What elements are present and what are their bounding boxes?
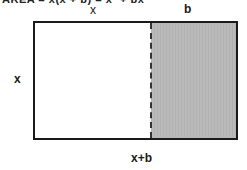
shaded-b-region <box>151 23 236 138</box>
dashed-divider <box>150 23 152 138</box>
top-b-label: b <box>184 3 191 15</box>
top-x-label: x <box>90 4 96 16</box>
area-rectangle <box>33 21 238 140</box>
area-formula-title: AREA = x(x + b) = x² + bx <box>2 0 144 5</box>
bottom-total-width-label: x+b <box>131 152 152 164</box>
left-x-label: x <box>14 73 21 85</box>
